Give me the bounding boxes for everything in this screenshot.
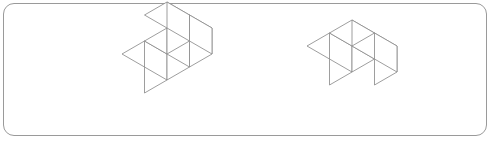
figure-layer — [0, 0, 493, 143]
figure-right-group — [307, 20, 397, 85]
screenshot-root — [0, 0, 493, 143]
figure-right-isometric-cubes — [0, 0, 493, 143]
